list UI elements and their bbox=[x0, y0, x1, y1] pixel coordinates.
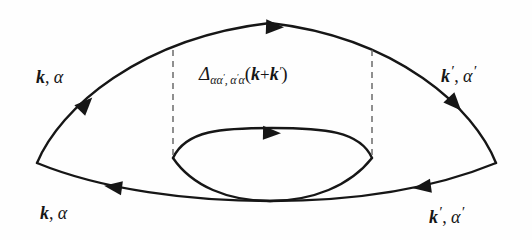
outer-upper-arc-left bbox=[37, 23, 270, 163]
diagram-canvas bbox=[0, 0, 532, 240]
spin-symbol: α bbox=[54, 67, 63, 87]
label-comma: , bbox=[454, 66, 460, 86]
spin-prime: ′ bbox=[472, 63, 476, 79]
label-incoming-lower: k, α bbox=[40, 204, 67, 222]
lower-arc-left-to-right bbox=[37, 158, 372, 201]
momentum-symbol: k bbox=[36, 67, 45, 87]
argument-k2: k bbox=[270, 64, 279, 84]
label-incoming-upper: k, α bbox=[36, 68, 63, 86]
plus-operator: + bbox=[260, 65, 270, 84]
delta-symbol: Δ bbox=[199, 63, 210, 84]
momentum-symbol: k bbox=[40, 203, 49, 223]
momentum-symbol: k bbox=[441, 66, 450, 86]
momentum-symbol: k bbox=[429, 207, 438, 227]
spin-symbol: α bbox=[58, 203, 67, 223]
arrowhead-lower-left bbox=[103, 179, 123, 195]
arrowhead-upper-left bbox=[74, 92, 97, 115]
propagator-subscript: αα′, α′α bbox=[210, 73, 245, 87]
subscript-first: αα bbox=[210, 73, 223, 87]
subscript-separator: , bbox=[225, 73, 228, 87]
outer-upper-arc-right bbox=[270, 23, 496, 163]
label-outgoing-upper: k′, α′ bbox=[441, 64, 477, 85]
label-comma: , bbox=[49, 203, 55, 223]
argument-k1: k bbox=[251, 64, 260, 84]
label-outgoing-lower: k′, α′ bbox=[429, 205, 465, 226]
spin-prime: ′ bbox=[460, 204, 464, 220]
label-comma: , bbox=[442, 207, 448, 227]
arrowhead-outer-top bbox=[266, 19, 285, 35]
label-propagator-expression: Δαα′, α′α(k+k′) bbox=[199, 64, 288, 86]
feynman-diagram-figure: k, α k′, α′ k, α k′, α′ Δαα′, α′α(k+k′) bbox=[0, 0, 532, 240]
close-paren: ) bbox=[281, 63, 287, 84]
lower-arc-right-to-left bbox=[173, 158, 496, 201]
label-comma: , bbox=[45, 67, 51, 87]
